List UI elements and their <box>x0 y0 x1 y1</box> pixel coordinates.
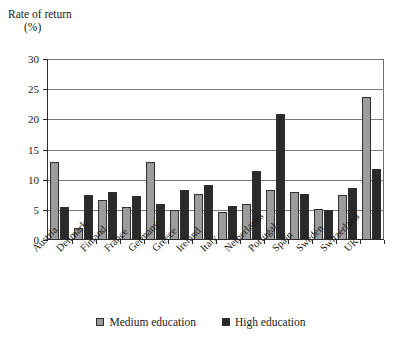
x-axis-labels: AustriaDenmarkFinlandFranceGermanyGreece… <box>0 240 402 310</box>
bar-group <box>360 59 384 240</box>
legend-label: Medium education <box>109 316 196 328</box>
y-axis-title: Rate of return <box>8 8 72 21</box>
legend-item[interactable]: Medium education <box>96 316 196 328</box>
bar-group <box>288 59 312 240</box>
bar-group <box>216 59 240 240</box>
bar-uk-medium[interactable] <box>362 97 371 240</box>
y-axis-unit: (%) <box>24 21 41 34</box>
bar-italy-medium[interactable] <box>218 212 227 240</box>
y-tick-label-30: 30 <box>9 54 39 65</box>
bar-group <box>48 59 72 240</box>
bar-group <box>192 59 216 240</box>
bar-uk-high[interactable] <box>372 169 381 240</box>
y-tick-label-20: 20 <box>9 114 39 125</box>
y-axis-tick-labels: 051015202530 <box>9 59 39 240</box>
legend-swatch-icon <box>222 318 230 326</box>
bar-chart: Rate of return (%) 051015202530 AustriaD… <box>0 0 402 346</box>
y-tick-label-25: 25 <box>9 84 39 95</box>
bar-group <box>96 59 120 240</box>
bar-group <box>72 59 96 240</box>
bars-layer <box>48 59 384 240</box>
bar-group <box>312 59 336 240</box>
bar-group <box>120 59 144 240</box>
legend-swatch-icon <box>96 318 104 326</box>
chart-legend: Medium educationHigh education <box>0 316 402 328</box>
y-tick-label-10: 10 <box>9 175 39 186</box>
legend-item[interactable]: High education <box>222 316 306 328</box>
legend-label: High education <box>235 316 306 328</box>
bar-group <box>264 59 288 240</box>
bar-group <box>144 59 168 240</box>
y-tick-label-5: 5 <box>9 205 39 216</box>
bar-portugal-high[interactable] <box>276 114 285 240</box>
y-tick-label-15: 15 <box>9 145 39 156</box>
bar-group <box>168 59 192 240</box>
